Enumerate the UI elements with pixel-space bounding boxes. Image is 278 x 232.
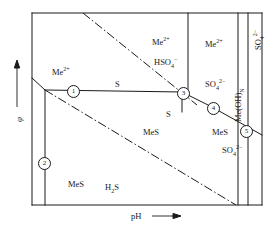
node-marker-3[interactable]: 3 — [177, 87, 190, 100]
y-axis-arrow-head — [14, 60, 19, 68]
region-label-mes-center: MeS — [143, 128, 159, 137]
region-label-mes-right: MeS — [212, 128, 228, 137]
region-label-so4-2minus-lower-right: SO42− — [222, 146, 242, 155]
node-marker-5[interactable]: 5 — [240, 125, 253, 138]
region-label-so4-2minus-right-top: SO42− — [205, 80, 225, 89]
region-label-h2s: H2S — [105, 183, 119, 192]
y-axis-label: φ — [14, 117, 24, 122]
region-label-me2plus-upper-left: Me2+ — [52, 68, 70, 77]
axis-arrows — [14, 60, 181, 219]
region-label-me-oh-n-vertical-band: Me(OH)N — [234, 88, 243, 122]
region-label-so4-2minus-far-right-vertical: SO42− — [254, 30, 263, 50]
node-marker-4[interactable]: 4 — [207, 102, 220, 115]
region-label-mes-lower-left: MeS — [68, 180, 84, 189]
region-label-s-below-node3: S — [166, 110, 171, 119]
x-axis-label: pH — [131, 211, 141, 221]
region-label-s-upper-middle: S — [115, 80, 120, 89]
node-marker-1[interactable]: 1 — [67, 85, 80, 98]
node-marker-2[interactable]: 2 — [38, 157, 51, 170]
region-label-me2plus-middle-top: Me2+ — [152, 38, 170, 47]
x-axis-arrow-head — [173, 213, 181, 218]
boundary-node1-to-node3 — [45, 90, 182, 92]
pourbaix-diagram: φ pH Me2+SMe2+HSO4−Me2+SO42−SMeSMeSSO42−… — [0, 0, 278, 232]
region-label-hso4-minus: HSO4− — [154, 58, 177, 67]
solid-boundary-lines — [32, 13, 262, 205]
boundary-node1-left-edge — [32, 78, 45, 90]
region-label-me2plus-right-top: Me2+ — [205, 40, 223, 49]
